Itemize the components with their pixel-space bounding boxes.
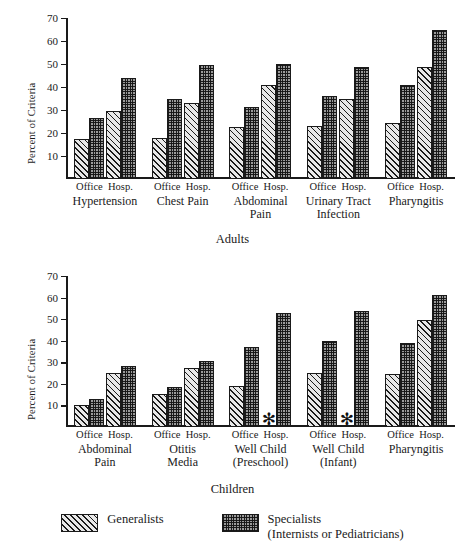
x-category-label: Hypertension [73,195,138,208]
y-tick-label: 50 [47,59,58,70]
chart-panel-adults: Percent of Criteria 10 20 30 40 50 60 70… [0,4,465,254]
y-tick-label: 20 [47,128,58,139]
y-tick-label: 50 [47,314,58,325]
bar-group [144,18,222,179]
bar-specialist [400,343,415,427]
bar-generalist [385,374,400,427]
bar-pair [385,18,415,179]
x-tick-label: Hosp. [260,181,291,192]
x-label-group: OfficeHosp.Otitis Media [144,429,222,470]
y-tick-label: 10 [47,151,58,162]
y-tick-label: 30 [47,105,58,116]
x-tick-label: Office [152,181,183,192]
x-tick-label: Office [385,181,416,192]
bar-generalist [184,103,199,179]
bar-generalist [106,373,121,427]
bar-pair [74,18,104,179]
y-tick-label: 70 [47,271,58,282]
x-label-group: OfficeHosp.Well Child (Preschool) [222,429,300,470]
missing-data-marker: ✻ [339,276,354,427]
x-tick-label: Hosp. [416,181,447,192]
y-axis-label-children: Percent of Criteria [26,339,37,420]
x-tick-label: Hosp. [105,429,136,440]
x-tick-label: Office [74,181,105,192]
bar-specialist [121,366,136,427]
bar-group: ✻ [299,276,377,427]
bar-pair [307,18,337,179]
x-category-label: Abdominal Pain [78,443,132,470]
y-tick-label: 10 [47,400,58,411]
chart-panel-children: Percent of Criteria 10 20 30 40 50 60 70… [0,262,465,502]
bar-specialist [244,347,259,427]
grouped-bar-chart-figure: Percent of Criteria 10 20 30 40 50 60 70… [0,0,465,557]
x-tick-label: Office [385,429,416,440]
x-label-group: OfficeHosp.Chest Pain [144,181,222,222]
legend-label-specialists: Specialists (Internists or Pediatricians… [268,512,404,542]
bar-specialist [354,311,369,427]
bar-specialist [167,387,182,427]
y-tick-label: 20 [47,378,58,389]
x-tick-label: Hosp. [183,429,214,440]
bar-generalist [307,126,322,179]
bar-specialist [432,30,447,179]
x-category-label: Pharyngitis [389,443,444,456]
panel-caption-adults: Adults [0,232,465,247]
bar-generalist [184,368,199,427]
x-label-group: OfficeHosp.Urinary Tract Infection [299,181,377,222]
bar-groups-adults [66,18,455,179]
bar-group [222,18,300,179]
bar-generalist [417,67,432,179]
x-tick-label: Hosp. [416,429,447,440]
bar-group [377,18,455,179]
bar-specialist [432,295,447,427]
x-tick-label: Hosp. [260,429,291,440]
asterisk-icon: ✻ [262,411,276,428]
y-tick-label: 70 [47,13,58,24]
bar-generalist [261,85,276,179]
x-tick-label: Office [74,429,105,440]
bar-pair [307,276,337,427]
x-axis-labels-adults: OfficeHosp.HypertensionOfficeHosp.Chest … [66,181,455,222]
bar-generalist [229,386,244,427]
bar-specialist [322,96,337,179]
bar-pair: ✻ [261,276,291,427]
y-tick-label: 40 [47,82,58,93]
legend-item-specialists: Specialists (Internists or Pediatricians… [222,512,404,542]
bar-generalist [307,373,322,427]
legend-swatch-generalists [61,514,98,532]
bar-specialist [400,85,415,179]
x-tick-label: Hosp. [338,429,369,440]
bar-generalist [339,99,354,180]
y-tick-label: 40 [47,335,58,346]
bar-generalist [417,320,432,427]
bar-specialist [199,65,214,179]
bar-specialist [276,313,291,427]
bar-specialist [244,107,259,179]
x-category-label: Pharyngitis [389,195,444,208]
asterisk-icon: ✻ [340,411,354,428]
x-label-group: OfficeHosp.Hypertension [66,181,144,222]
y-axis-label-adults: Percent of Criteria [26,83,37,164]
legend-swatch-specialists [222,514,259,532]
bar-pair [152,18,182,179]
x-label-group: OfficeHosp.Well Child (Infant) [299,429,377,470]
bar-specialist [199,361,214,427]
x-tick-label: Office [307,181,338,192]
x-tick-label: Hosp. [338,181,369,192]
bar-pair [339,18,369,179]
bar-specialist [167,99,182,180]
x-category-label: Otitis Media [167,443,198,470]
bar-generalist [152,394,167,427]
y-tick-label: 60 [47,292,58,303]
bar-generalist [106,111,121,179]
x-tick-label: Office [229,429,260,440]
bar-pair [229,18,259,179]
x-label-group: OfficeHosp.Pharyngitis [377,429,455,470]
bar-group [299,18,377,179]
x-category-label: Abdominal Pain [233,195,287,222]
bar-group [377,276,455,427]
bar-group [144,276,222,427]
bar-groups-children: ✻✻ [66,276,455,427]
legend-label-generalists: Generalists [107,512,163,527]
x-axis-labels-children: OfficeHosp.Abdominal PainOfficeHosp.Otit… [66,429,455,470]
